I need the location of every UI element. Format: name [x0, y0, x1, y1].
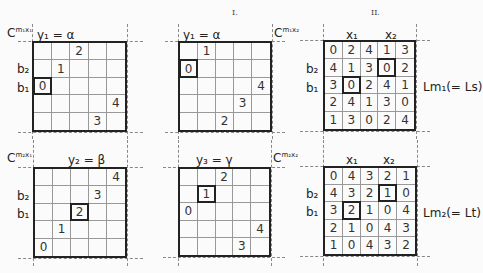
grid-cell: 0	[180, 60, 198, 77]
grid-cell	[233, 221, 251, 238]
grid-cell: 3	[89, 113, 107, 130]
grid-cell	[216, 238, 234, 255]
grid-cell	[180, 95, 198, 112]
grid-cell: 1	[53, 221, 71, 238]
grid: 21043	[32, 41, 127, 132]
grid-cell	[180, 169, 198, 186]
grid-cell: 4	[361, 237, 379, 254]
grid-cell: 0	[325, 168, 343, 185]
panel-title: y₃ = γ	[196, 153, 233, 167]
grid-cell	[234, 78, 252, 95]
grid-cell	[251, 203, 269, 220]
grid-cell	[52, 78, 70, 95]
grid-cell	[70, 60, 88, 77]
grid-cell	[234, 60, 252, 77]
grid-cell	[251, 238, 269, 255]
grid-cell: 3	[397, 220, 415, 237]
grid-cell	[216, 186, 234, 203]
grid-cell: 1	[397, 168, 415, 185]
grid-cell: 3	[343, 112, 361, 129]
grid-cell	[233, 169, 251, 186]
grid-cell: 4	[325, 185, 343, 202]
grid-cell: 0	[180, 203, 198, 220]
row-label-b1: b₁	[17, 207, 29, 221]
grid-cell	[233, 186, 251, 203]
corner-label: Cm₁x₁	[7, 26, 32, 40]
corner-label: Cm₂x₁	[7, 151, 32, 165]
col-label-x1: x₁	[346, 153, 358, 167]
grid-cell: 4	[379, 220, 397, 237]
grid-cell: 2	[343, 42, 361, 59]
grid-cell: 0	[397, 185, 415, 202]
grid-cell: 1	[343, 59, 361, 76]
grid-cell	[216, 95, 234, 112]
latin-square-label: Lm₂(= Lt)	[423, 206, 481, 220]
grid-cell: 1	[198, 43, 216, 60]
grid-cell	[216, 60, 234, 77]
grid-cell	[107, 60, 125, 77]
row-label-b1: b₁	[17, 81, 29, 95]
section-label-ii: II.	[371, 8, 380, 17]
panel-title: y₁ = α	[183, 28, 221, 42]
grid-cell: 4	[325, 59, 343, 76]
grid-cell: 2	[361, 77, 379, 94]
grid-cell: 3	[325, 77, 343, 94]
grid-cell: 4	[343, 94, 361, 111]
grid-cell	[251, 186, 269, 203]
grid-cell	[89, 239, 107, 256]
grid-cell: 0	[361, 112, 379, 129]
grid-cell	[52, 113, 70, 130]
grid-cell	[70, 113, 88, 130]
grid-cell	[107, 78, 125, 95]
grid-cell	[216, 78, 234, 95]
grid-cell: 3	[378, 94, 396, 111]
grid-cell	[34, 95, 52, 112]
grid-cell: 1	[325, 237, 343, 254]
grid-cell	[180, 43, 198, 60]
grid-cell	[35, 186, 53, 203]
row-label-b2: b₂	[306, 62, 318, 76]
grid-cell	[251, 169, 269, 186]
grid-cell	[198, 203, 216, 220]
grid-cell: 3	[233, 238, 251, 255]
grid-cell	[35, 221, 53, 238]
grid-cell	[107, 221, 125, 238]
grid-cell	[252, 43, 270, 60]
grid-cell	[107, 186, 125, 203]
grid-cell: 3	[234, 95, 252, 112]
panel-title: y₁ = α	[37, 28, 75, 42]
grid-cell	[180, 186, 198, 203]
grid-cell	[34, 60, 52, 77]
grid-cell: 0	[343, 77, 361, 94]
grid-cell	[71, 186, 89, 203]
grid-cell	[89, 43, 107, 60]
grid-cell	[198, 169, 216, 186]
grid-cell	[35, 169, 53, 186]
corner-label: Cm₂x₂	[273, 151, 298, 165]
grid-cell	[216, 221, 234, 238]
grid-cell: 1	[325, 112, 343, 129]
grid-cell: 3	[396, 42, 414, 59]
grid-cell	[198, 95, 216, 112]
grid-cell	[216, 43, 234, 60]
grid-cell	[89, 221, 107, 238]
grid-cell	[252, 60, 270, 77]
grid-cell: 4	[361, 42, 379, 59]
grid-cell: 3	[325, 202, 343, 219]
panel-title: y₂ = β	[68, 153, 105, 167]
grid-cell: 2	[216, 113, 234, 130]
grid-cell: 4	[396, 112, 414, 129]
grid-cell	[35, 204, 53, 221]
grid-cell	[216, 203, 234, 220]
grid-cell	[107, 43, 125, 60]
grid-cell: 4	[251, 221, 269, 238]
grid-cell	[71, 221, 89, 238]
grid-cell	[34, 43, 52, 60]
grid-cell: 2	[379, 168, 397, 185]
grid-cell	[180, 78, 198, 95]
grid-cell	[180, 113, 198, 130]
grid-cell: 0	[325, 42, 343, 59]
grid-cell: 1	[396, 77, 414, 94]
grid-cell	[53, 239, 71, 256]
grid-cell	[52, 43, 70, 60]
